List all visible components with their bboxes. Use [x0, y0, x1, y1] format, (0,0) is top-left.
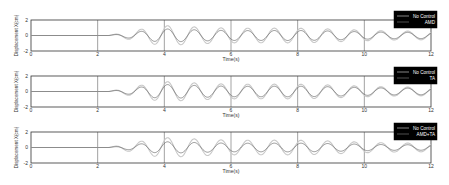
y-tick-label: -2: [24, 48, 29, 54]
x-tick-label: 0: [30, 51, 33, 57]
x-axis-label: Time(s): [223, 168, 240, 174]
legend-label: No Control: [413, 126, 435, 131]
y-axis-label: Displacement X(cm): [14, 126, 19, 168]
y-tick-label: 0: [25, 144, 28, 150]
x-tick-label: 2: [96, 107, 99, 113]
x-tick-label: 4: [163, 51, 166, 57]
legend: No ControlTA: [394, 67, 437, 84]
legend-label: AMD+TA: [417, 132, 436, 137]
y-axis-label: Displacement X(cm): [14, 70, 19, 112]
panel-2: 20-2024681012Time(s)Displacement X(cm)No…: [14, 67, 437, 118]
legend: No ControlAMD+TA: [394, 123, 437, 140]
y-tick-label: 2: [25, 17, 28, 23]
x-tick-label: 8: [296, 163, 299, 169]
legend-label: No Control: [413, 14, 435, 19]
y-tick-label: -2: [24, 104, 29, 110]
x-axis-label: Time(s): [223, 56, 240, 62]
x-tick-label: 0: [30, 163, 33, 169]
y-axis-label: Displacement X(cm): [14, 14, 19, 56]
legend-label: TA: [429, 76, 435, 81]
y-tick-label: 2: [25, 129, 28, 135]
panel-3: 20-2024681012Time(s)Displacement X(cm)No…: [14, 123, 437, 174]
x-tick-label: 0: [30, 107, 33, 113]
y-tick-label: 0: [25, 88, 28, 94]
legend-label: AMD: [425, 20, 436, 25]
x-tick-label: 12: [428, 107, 434, 113]
x-axis-label: Time(s): [223, 112, 240, 118]
x-tick-label: 10: [362, 163, 368, 169]
legend: No ControlAMD: [394, 11, 437, 28]
figure: 20-2024681012Time(s)Displacement X(cm)No…: [0, 0, 449, 185]
x-tick-label: 10: [362, 51, 368, 57]
x-tick-label: 2: [96, 51, 99, 57]
x-tick-label: 2: [96, 163, 99, 169]
x-tick-label: 12: [428, 51, 434, 57]
x-tick-label: 8: [296, 107, 299, 113]
y-tick-label: 0: [25, 32, 28, 38]
panel-1: 20-2024681012Time(s)Displacement X(cm)No…: [14, 11, 437, 62]
x-tick-label: 4: [163, 163, 166, 169]
legend-label: No Control: [413, 70, 435, 75]
x-tick-label: 10: [362, 107, 368, 113]
x-tick-label: 12: [428, 163, 434, 169]
x-tick-label: 8: [296, 51, 299, 57]
x-tick-label: 4: [163, 107, 166, 113]
y-tick-label: -2: [24, 160, 29, 166]
y-tick-label: 2: [25, 73, 28, 79]
